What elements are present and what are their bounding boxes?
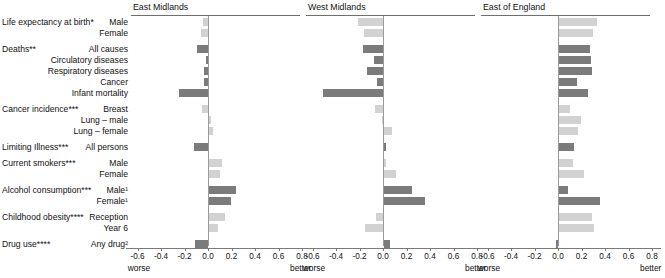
bar	[559, 45, 590, 53]
row-label: All causes	[89, 45, 128, 54]
x-axis-tick-label: -0.4	[148, 252, 174, 261]
x-axis-tick	[383, 248, 384, 251]
row-label: All persons	[85, 143, 128, 152]
row-label: Female¹	[96, 197, 128, 206]
x-axis-tick-label: 0.2	[394, 252, 420, 261]
x-axis-tick	[360, 248, 361, 251]
row-label: Infant mortality	[72, 89, 128, 98]
x-axis-tick	[336, 248, 337, 251]
bar	[559, 127, 578, 135]
bar	[367, 67, 383, 75]
row-label: Lung – female	[74, 127, 128, 136]
x-axis-tick-label: 0.4	[242, 252, 268, 261]
x-axis-tick-label: -0.4	[498, 252, 524, 261]
bar	[384, 170, 396, 178]
x-axis-line	[301, 248, 487, 249]
bar	[364, 29, 383, 37]
x-axis-line	[126, 248, 312, 249]
x-axis-tick-label: 0.0	[370, 252, 396, 261]
panel-title: West Midlands	[308, 2, 366, 12]
axis-end-label-worse: worse	[128, 264, 150, 273]
bar	[209, 197, 231, 205]
bar	[559, 78, 577, 86]
plot-area	[306, 16, 479, 246]
x-axis-tick-label: 0.0	[545, 252, 571, 261]
x-axis-tick-label: -0.6	[475, 252, 501, 261]
bar	[209, 127, 213, 135]
bar	[559, 89, 588, 97]
bar	[202, 105, 208, 113]
row-label: Any drug²	[91, 240, 128, 249]
bar	[559, 67, 592, 75]
bar	[209, 186, 236, 194]
row-label: Breast	[103, 105, 128, 114]
bar	[556, 240, 558, 248]
x-axis-tick-label: 0.6	[441, 252, 467, 261]
x-axis-tick-label: 0.6	[616, 252, 642, 261]
row-label: Female	[99, 170, 128, 179]
group-label: Life expectancy at birth*	[2, 18, 94, 27]
x-axis-tick-label: 0.6	[266, 252, 292, 261]
x-axis-tick-label: -0.2	[172, 252, 198, 261]
bar	[559, 116, 581, 124]
panel-1: East Midlands-0.6-0.4-0.20.00.20.40.60.8…	[131, 0, 304, 278]
x-axis-tick	[313, 248, 314, 251]
x-axis-tick-label: 0.8	[639, 252, 665, 261]
x-axis-tick	[185, 248, 186, 251]
row-label: Lung – male	[81, 116, 128, 125]
x-axis-tick-label: -0.4	[323, 252, 349, 261]
row-label: Reception	[89, 213, 128, 222]
bar	[376, 213, 383, 221]
bar	[179, 89, 208, 97]
row-label: Year 6	[103, 224, 128, 233]
panel-2: West Midlands-0.6-0.4-0.20.00.20.40.60.8…	[306, 0, 479, 278]
x-axis-tick-label: 0.4	[417, 252, 443, 261]
bar	[377, 78, 383, 86]
x-axis-tick	[138, 248, 139, 251]
bar	[209, 170, 220, 178]
bar	[384, 197, 425, 205]
group-label: Cancer incidence***	[2, 105, 78, 114]
x-axis-tick	[488, 248, 489, 251]
bar	[204, 67, 208, 75]
group-label: Childhood obesity****	[2, 213, 84, 222]
plot-area	[481, 16, 654, 246]
x-axis-tick	[430, 248, 431, 251]
row-label: Female	[99, 29, 128, 38]
bar	[559, 170, 584, 178]
bar	[365, 224, 383, 232]
x-axis-tick	[629, 248, 630, 251]
bar	[559, 29, 593, 37]
bar	[384, 143, 386, 151]
row-label: Male	[109, 159, 128, 168]
x-axis-tick	[605, 248, 606, 251]
x-axis-tick-label: 0.2	[569, 252, 595, 261]
axis-end-label-worse: worse	[478, 264, 500, 273]
bar	[559, 56, 591, 64]
bar	[204, 78, 208, 86]
bar	[209, 213, 225, 221]
x-axis-tick	[535, 248, 536, 251]
axis-end-label-better: better	[631, 264, 661, 273]
bar	[384, 159, 386, 167]
group-label: Alcohol consumption***	[2, 186, 91, 195]
group-label: Deaths**	[2, 45, 36, 54]
x-axis-tick-label: 0.2	[219, 252, 245, 261]
row-label: Cancer	[100, 78, 128, 87]
bar	[363, 45, 383, 53]
bar	[384, 127, 392, 135]
x-axis-tick	[208, 248, 209, 251]
bar	[374, 56, 383, 64]
x-axis-tick	[511, 248, 512, 251]
plot-area	[131, 16, 304, 246]
bar	[209, 116, 211, 124]
x-axis-tick	[279, 248, 280, 251]
x-axis-tick-label: 0.0	[195, 252, 221, 261]
bar	[384, 186, 412, 194]
group-label: Limiting Illness***	[2, 143, 68, 152]
x-axis-tick-label: -0.2	[347, 252, 373, 261]
bar	[559, 186, 568, 194]
bar	[323, 89, 383, 97]
panel-3: East of England-0.6-0.4-0.20.00.20.40.60…	[481, 0, 654, 278]
bar	[195, 240, 208, 248]
